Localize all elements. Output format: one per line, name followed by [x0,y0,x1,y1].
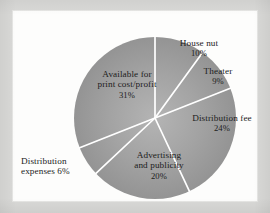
slice-label-house-nut-name: House nut [180,38,218,48]
slice-label-advertising-line1: Advertising [137,150,181,160]
slice-label-available-percent: 31% [75,90,179,100]
slice-label-theater-name: Theater [204,66,233,76]
slice-label-distribution-expenses-line2: expenses 6% [21,166,109,176]
slice-label-house-nut: House nut 10% [165,38,233,58]
slice-label-theater: Theater 9% [189,66,247,86]
slice-label-available-line2: print cost/profit [75,79,179,89]
figure-container: House nut 10% Theater 9% Distribution fe… [0,0,270,213]
slice-label-available-print-cost-profit: Available for print cost/profit 31% [75,69,179,100]
slice-label-advertising-line2: and publicity [117,160,201,170]
slice-label-available-line1: Available for [102,69,151,79]
chart-plate: House nut 10% Theater 9% Distribution fe… [12,10,258,202]
slice-label-advertising-percent: 20% [117,171,201,181]
slice-label-distribution-expenses: Distribution expenses 6% [21,156,109,177]
slice-label-distribution-fee-name: Distribution fee [192,113,252,123]
slice-label-distribution-fee: Distribution fee 24% [179,113,265,133]
slice-label-distribution-expenses-line1: Distribution [21,156,67,166]
slice-label-distribution-fee-percent: 24% [179,123,265,133]
slice-label-house-nut-percent: 10% [165,48,233,58]
slice-label-theater-percent: 9% [189,76,247,86]
slice-label-advertising: Advertising and publicity 20% [117,150,201,181]
